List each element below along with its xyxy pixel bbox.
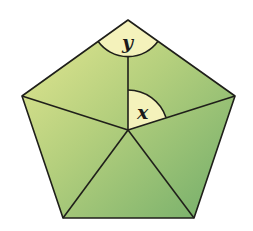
angle-y-label: y [121,31,135,53]
angle-x-label: x [136,101,149,123]
pentagon-diagram: y x [0,0,253,231]
